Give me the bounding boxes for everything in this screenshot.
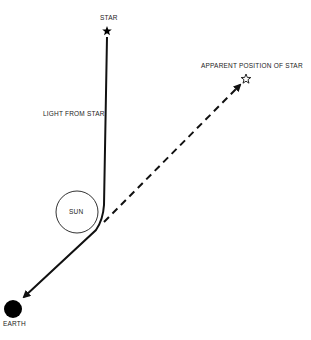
- diagram-svg: [0, 0, 311, 340]
- light-path: [24, 37, 107, 297]
- earth-circle: [4, 300, 22, 318]
- filled-star-icon: [102, 26, 112, 35]
- star-label: STAR: [100, 15, 118, 22]
- apparent-position-label: APPARENT POSITION OF STAR: [201, 63, 303, 70]
- diagram-canvas: STAR APPARENT POSITION OF STAR LIGHT FRO…: [0, 0, 311, 340]
- sun-label: SUN: [69, 209, 83, 216]
- earth-label: EARTH: [3, 321, 26, 328]
- outline-star-icon: [241, 74, 251, 83]
- apparent-path: [104, 85, 240, 222]
- light-from-star-label: LIGHT FROM STAR: [43, 111, 105, 118]
